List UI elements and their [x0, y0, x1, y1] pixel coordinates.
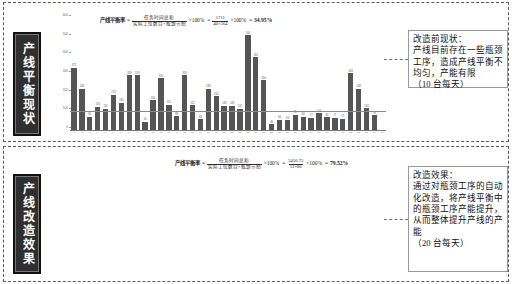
bar — [316, 113, 321, 131]
bar-series-top: 3722488414313121316532932954180310155883… — [70, 29, 386, 131]
x-tick-label: 38 — [363, 131, 371, 141]
bar-item: 71 — [339, 29, 347, 131]
bar — [103, 109, 108, 131]
x-tick-label: 33 — [323, 131, 331, 141]
x-tick-label: 29 — [291, 131, 299, 141]
y-tick-label: 0 — [66, 125, 68, 129]
bar — [285, 120, 290, 131]
bar — [127, 75, 132, 131]
bar-item: 148 — [220, 29, 228, 131]
callout-leader-top — [384, 59, 408, 60]
bar-item: 54 — [141, 29, 149, 131]
x-tick-label: 9 — [133, 131, 141, 141]
bar-item: 213 — [110, 29, 118, 131]
bar-item: 95 — [291, 29, 299, 131]
x-tick-label: 32 — [315, 131, 323, 141]
bar — [308, 118, 313, 131]
average-line-top — [70, 111, 386, 112]
bar — [237, 109, 242, 131]
formula-times-2-top: ×100% — [230, 18, 246, 23]
x-tick-label: 20 — [220, 131, 228, 141]
formula-label-bottom: 产线平衡率 — [175, 161, 200, 166]
bar — [277, 120, 282, 131]
bar-item: 372 — [70, 29, 78, 131]
bar-item: 434 — [252, 29, 260, 131]
bar-item: 84 — [86, 29, 94, 131]
x-tick-label: 7 — [117, 131, 125, 141]
x-tick-label: 19 — [212, 131, 220, 141]
x-tick-label: 3 — [86, 131, 94, 141]
bar — [261, 80, 266, 131]
formula-equals-3-bottom: = — [325, 161, 328, 166]
x-tick-label: 35 — [339, 131, 347, 141]
bar-item: 155 — [165, 29, 173, 131]
formula-fraction-1-top: 任务时间总和 实际工位数目×瓶颈节拍 — [132, 16, 187, 26]
bar — [182, 75, 187, 131]
bar-item: 40 — [268, 29, 276, 131]
bar — [71, 68, 76, 131]
bar-item: 152 — [189, 29, 197, 131]
bar-item: 329 — [125, 29, 133, 131]
bar — [150, 100, 155, 131]
x-tick-label: 30 — [299, 131, 307, 141]
callout-leader-bottom — [384, 219, 408, 220]
formula-balance-rate-before: 产线平衡率 = 任务时间总和 实际工位数目×瓶颈节拍 ×100% = 1711 … — [100, 16, 272, 26]
bar — [87, 117, 92, 131]
x-tick-label: 34 — [331, 131, 339, 141]
bar-item: 300 — [260, 29, 268, 131]
x-tick-label: 17 — [197, 131, 205, 141]
bar — [324, 117, 329, 131]
y-tick-label: 100 — [63, 106, 68, 110]
bar-item: 66 — [276, 29, 284, 131]
bar — [190, 105, 195, 131]
bar-item: 310 — [157, 29, 165, 131]
x-tick-label: 16 — [189, 131, 197, 141]
y-axis-top: 0100200300400500600 — [56, 29, 70, 141]
formula-equals-1-top: = — [127, 18, 130, 23]
section-title-improved-state: 产线改造效果 — [13, 174, 41, 274]
y-tick-label: 200 — [63, 88, 68, 92]
bar-item: 88 — [173, 29, 181, 131]
bar-item: 329 — [181, 29, 189, 131]
bar — [198, 119, 203, 131]
bar — [340, 119, 345, 131]
bar-item: 143 — [94, 29, 102, 131]
bar — [332, 118, 337, 131]
formula-denominator-1-top: 实际工位数目×瓶颈节拍 — [132, 21, 187, 27]
bar-item: 80 — [323, 29, 331, 131]
x-tick-label: 8 — [125, 131, 133, 141]
x-tick-label: 23 — [244, 131, 252, 141]
formula-equals-2-bottom: = — [282, 161, 285, 166]
x-tick-label: 13 — [165, 131, 173, 141]
x-tick-label: 31 — [307, 131, 315, 141]
bar-item: 248 — [204, 29, 212, 131]
formula-equals-1-bottom: = — [202, 161, 205, 166]
bar — [356, 89, 361, 131]
bar-item — [378, 29, 386, 131]
bar — [135, 75, 140, 131]
formula-denominator-2-bottom: 51×86 — [289, 164, 303, 170]
section-title-current-state: 产线平衡现状 — [13, 32, 41, 136]
formula-denominator-2-top: 40×564 — [212, 21, 228, 27]
formula-times-1-bottom: ×100% — [264, 161, 280, 166]
bar-item: 248 — [355, 29, 363, 131]
x-tick-label: 40 — [378, 131, 386, 141]
formula-equals-3-top: = — [249, 18, 252, 23]
formula-fraction-2-bottom: 3456.75 51×86 — [287, 159, 304, 169]
x-tick-label: 14 — [173, 131, 181, 141]
x-tick-label: 28 — [283, 131, 291, 141]
bar — [79, 89, 84, 131]
callout-improved-state: 改造效果： 通过对瓶颈工序的自动化改造，将产线平衡中的瓶颈工序产能提升，从而整体… — [408, 166, 508, 272]
formula-label-top: 产线平衡率 — [100, 18, 125, 23]
bar — [372, 115, 377, 131]
bar — [119, 103, 124, 131]
formula-times-2-bottom: ×100% — [306, 161, 322, 166]
y-tick-label: 500 — [63, 32, 68, 36]
x-tick-label: 12 — [157, 131, 165, 141]
bar — [166, 105, 171, 131]
x-tick-label: 4 — [94, 131, 102, 141]
bar — [214, 96, 219, 131]
formula-balance-rate-after: 产线平衡率 = 任务时间总和 实际工位数目×瓶颈节拍 ×100% = 3456.… — [175, 159, 348, 169]
bar — [229, 106, 234, 131]
bar-item: 131 — [236, 29, 244, 131]
